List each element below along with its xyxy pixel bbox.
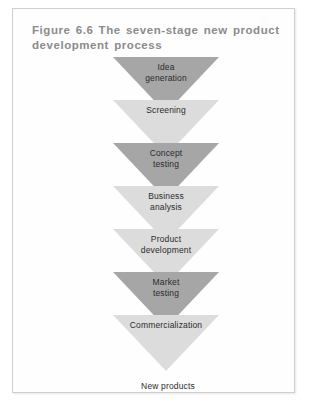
figure-frame: Figure 6.6 The seven-stage new product d… xyxy=(12,8,295,393)
figure-title: Figure 6.6 The seven-stage new product d… xyxy=(32,23,282,53)
funnel-triangle-7 xyxy=(113,315,219,371)
figure-page: Figure 6.6 The seven-stage new product d… xyxy=(0,0,310,410)
funnel-diagram: Idea generation Screening Concept testin… xyxy=(13,57,310,377)
funnel-output-label: New products xyxy=(13,381,310,391)
funnel-stage-7: Commercialization xyxy=(113,315,219,371)
